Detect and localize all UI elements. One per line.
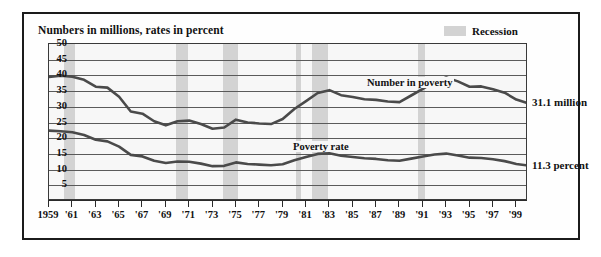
x-axis-tick-label: '87	[368, 209, 381, 220]
x-axis-tick	[305, 201, 306, 207]
y-axis-tick-label: 30	[45, 101, 67, 112]
x-axis-tick	[212, 201, 213, 207]
x-axis-tick	[352, 201, 353, 207]
y-axis-tick-label: 5	[45, 179, 67, 190]
x-axis-tick-label: '95	[462, 209, 475, 220]
y-axis-tick-label: 10	[45, 164, 67, 175]
x-axis-tick	[515, 201, 516, 207]
figure-canvas: Numbers in millions, rates in percent Re…	[0, 0, 601, 257]
end-label-number-in-poverty: 31.1 million	[532, 96, 587, 108]
x-axis-tick	[328, 201, 329, 207]
x-axis-tick	[165, 201, 166, 207]
y-axis-tick-label: 20	[45, 132, 67, 143]
x-axis-tick-label: '77	[252, 209, 265, 220]
y-axis-tick-label: 40	[45, 69, 67, 80]
legend-label-recession: Recession	[472, 25, 518, 37]
series-line	[49, 76, 527, 129]
x-axis-tick-label: '61	[65, 209, 78, 220]
chart-title: Numbers in millions, rates in percent	[38, 24, 224, 36]
x-axis-tick	[398, 201, 399, 207]
x-axis-tick-label: 1959	[38, 209, 59, 220]
y-axis-tick-label: 15	[45, 148, 67, 159]
x-axis-tick	[422, 201, 423, 207]
y-axis-tick-label: 45	[45, 54, 67, 65]
x-axis-tick-label: '69	[158, 209, 171, 220]
x-axis-tick-label: '75	[228, 209, 241, 220]
x-axis-tick-label: '97	[485, 209, 498, 220]
x-axis-tick	[258, 201, 259, 207]
x-axis-tick	[492, 201, 493, 207]
x-axis-tick	[375, 201, 376, 207]
series-layer	[49, 44, 527, 200]
poverty-chart-figure: Numbers in millions, rates in percent Re…	[0, 0, 601, 257]
x-axis-tick	[95, 201, 96, 207]
x-axis-tick-label: '79	[275, 209, 288, 220]
y-axis-tick-label: 25	[45, 117, 67, 128]
x-axis-tick	[445, 201, 446, 207]
recession-swatch-icon	[444, 26, 466, 36]
plot-area: Number in povertyPoverty rate	[48, 43, 527, 200]
series-annotation-poverty-rate: Poverty rate	[292, 141, 350, 152]
series-annotation-number-in-poverty: Number in poverty	[366, 77, 454, 88]
x-axis-tick	[118, 201, 119, 207]
x-axis-tick	[141, 201, 142, 207]
x-axis-tick-label: '93	[439, 209, 452, 220]
y-axis-tick-label: 35	[45, 85, 67, 96]
legend: Recession	[444, 25, 518, 37]
x-axis-tick-label: '85	[345, 209, 358, 220]
y-axis-tick-label: 50	[45, 38, 67, 49]
x-axis-tick	[282, 201, 283, 207]
x-axis-tick-label: '99	[509, 209, 522, 220]
series-line	[49, 131, 527, 166]
x-axis-tick-label: '73	[205, 209, 218, 220]
x-axis-tick-label: '83	[322, 209, 335, 220]
plot-wrapper: Number in povertyPoverty rate	[48, 43, 527, 200]
x-axis-tick-label: '71	[181, 209, 194, 220]
x-axis-tick	[235, 201, 236, 207]
x-axis-tick-label: '89	[392, 209, 405, 220]
x-axis-tick-label: '67	[135, 209, 148, 220]
x-axis-tick-label: '81	[298, 209, 311, 220]
x-axis-tick	[469, 201, 470, 207]
x-axis-tick	[48, 201, 49, 207]
x-axis-tick-label: '91	[415, 209, 428, 220]
x-axis-tick-label: '63	[88, 209, 101, 220]
x-axis-tick-label: '65	[111, 209, 124, 220]
x-axis-line	[48, 200, 527, 201]
end-label-poverty-rate: 11.3 percent	[532, 159, 589, 171]
x-axis-tick	[188, 201, 189, 207]
x-axis-tick	[71, 201, 72, 207]
